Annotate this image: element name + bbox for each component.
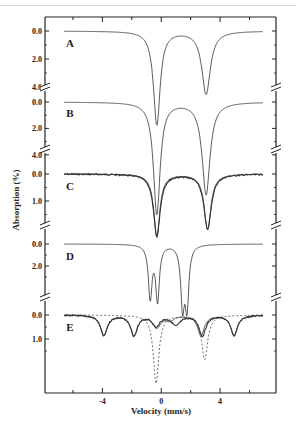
y-tick-label: 0.0 xyxy=(32,170,42,179)
y-axis-title: Absorption (%) xyxy=(11,170,21,231)
y-tick-label: 0.0 xyxy=(32,98,42,107)
spectrum-C-measured xyxy=(64,174,263,237)
y-tick-label: 1.0 xyxy=(32,335,42,344)
x-tick-label: 0 xyxy=(159,397,163,406)
y-tick-label: 4.0 xyxy=(32,151,42,160)
spectrum-A-measured+fit xyxy=(64,31,263,125)
panel-label-E: E xyxy=(66,321,73,333)
panel-label-B: B xyxy=(66,107,74,119)
y-tick-label: 2.0 xyxy=(32,124,42,133)
spectrum-B-measured+fit xyxy=(64,102,263,215)
panel-D: 0.02.0D xyxy=(32,240,281,316)
panel-B: 0.02.04.0B xyxy=(32,98,281,215)
y-tick-label: 2.0 xyxy=(32,55,42,64)
panel-E: 0.01.0E xyxy=(32,311,276,383)
y-tick-label: 0.0 xyxy=(32,311,42,320)
x-tick-label: 4 xyxy=(218,397,222,406)
panel-label-C: C xyxy=(66,180,74,192)
y-tick-label: 0.0 xyxy=(32,27,42,36)
y-tick-label: 2.0 xyxy=(32,262,42,271)
mossbauer-chart: 0.02.04.0A0.02.04.0B0.01.0C0.02.0D0.01.0… xyxy=(0,0,296,429)
panel-label-A: A xyxy=(66,37,74,49)
spectrum-D-measured+fit xyxy=(64,244,263,316)
panel-label-D: D xyxy=(66,250,74,262)
spectrum-E-sextet-fit xyxy=(64,315,263,336)
spectrum-C-fit xyxy=(64,174,263,236)
y-tick-label: 1.0 xyxy=(32,197,42,206)
x-axis-title: Velocity (mm/s) xyxy=(131,406,191,416)
x-tick-label: -4 xyxy=(99,397,106,406)
spectrum-E-doublet-component xyxy=(64,315,263,383)
y-tick-label: 0.0 xyxy=(32,240,42,249)
panel-C: 0.01.0C xyxy=(32,170,281,237)
